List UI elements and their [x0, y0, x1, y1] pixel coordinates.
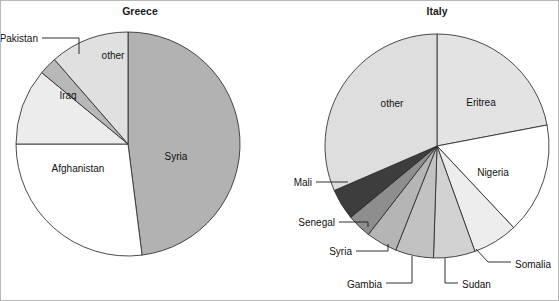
slice-label-italy-other: other	[381, 98, 404, 109]
chart-title-greece: Greece	[122, 5, 158, 17]
slice-label-italy-senegal: Senegal	[298, 217, 335, 228]
slice-label-italy-mali: Mali	[294, 177, 312, 188]
slice-label-italy-nigeria: Nigeria	[477, 167, 509, 178]
slice-label-italy-gambia: Gambia	[347, 279, 382, 290]
slice-label-greece-iraq: Iraq	[59, 90, 76, 101]
slice-label-italy-somalia: Somalia	[515, 259, 552, 270]
pie-slices-italy	[325, 34, 549, 258]
chart-title-italy: Italy	[426, 5, 447, 17]
slice-label-italy-eritrea: Eritrea	[466, 97, 496, 108]
slice-label-greece-afghanistan: Afghanistan	[52, 163, 105, 174]
slice-label-greece-syria: Syria	[165, 151, 188, 162]
pie-chart-figure: SyriaAfghanistanIraqPakistanotherGreeceE…	[0, 0, 559, 301]
pie-slices-greece	[16, 32, 240, 256]
slice-label-italy-sudan: Sudan	[462, 279, 491, 290]
slice-label-italy-syria: Syria	[329, 246, 352, 257]
slice-label-greece-other: other	[102, 50, 125, 61]
slice-label-greece-pakistan: Pakistan	[0, 33, 38, 44]
